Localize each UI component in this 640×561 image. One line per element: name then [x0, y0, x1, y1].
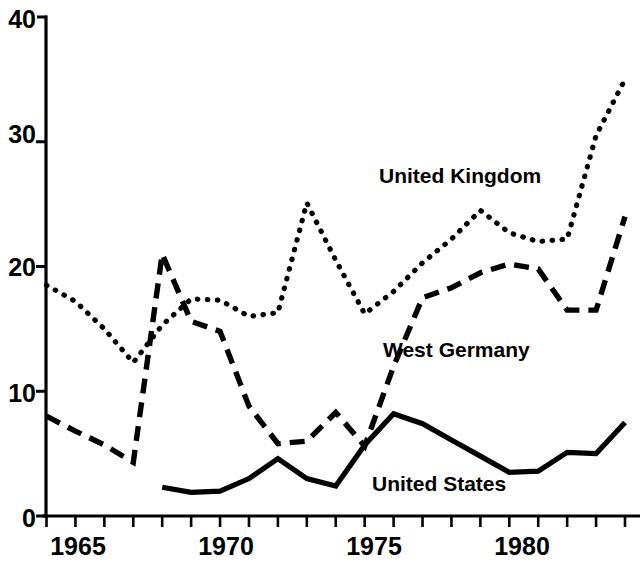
- chart-series-layer: [47, 79, 626, 492]
- y-tick-label-30: 30: [8, 120, 36, 148]
- series-line-united-kingdom: [47, 79, 626, 362]
- series-label-united-kingdom: United Kingdom: [379, 164, 541, 187]
- line-chart: 40 30 20 10 0 1965 1970 1975 1980 United…: [0, 0, 640, 561]
- series-label-united-states: United States: [372, 472, 506, 495]
- x-tick-label-1970: 1970: [198, 532, 254, 560]
- y-axis-tick-labels: 40 30 20 10 0: [8, 5, 36, 532]
- x-axis-ticks: [47, 516, 626, 527]
- y-tick-label-20: 20: [8, 253, 36, 281]
- x-axis-tick-labels: 1965 1970 1975 1980: [50, 532, 550, 560]
- y-tick-label-10: 10: [8, 379, 36, 407]
- chart-container: 40 30 20 10 0 1965 1970 1975 1980 United…: [0, 0, 640, 561]
- y-tick-label-0: 0: [22, 504, 36, 532]
- series-line-west-germany: [47, 217, 626, 463]
- x-tick-label-1965: 1965: [50, 532, 106, 560]
- y-tick-label-40: 40: [8, 5, 36, 33]
- x-tick-label-1975: 1975: [346, 532, 402, 560]
- series-label-west-germany: West Germany: [383, 338, 530, 361]
- x-tick-label-1980: 1980: [494, 532, 550, 560]
